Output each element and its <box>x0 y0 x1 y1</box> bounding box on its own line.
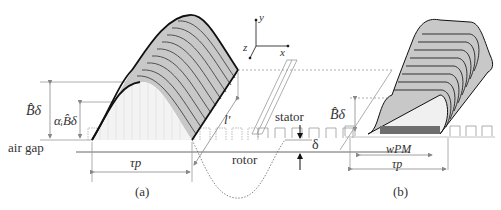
panel-a <box>40 15 410 198</box>
permanent-magnet <box>380 126 440 134</box>
caption-a: (a) <box>135 185 149 198</box>
length-label: l' <box>224 113 230 126</box>
caption-b: (b) <box>393 185 408 198</box>
panel-b <box>345 19 495 170</box>
y-axis-label: y <box>259 12 264 23</box>
rotor-flux-curve <box>192 140 285 198</box>
peak-flux-label: B̂δ <box>26 104 41 118</box>
b-peak-flux-label: B̂δ <box>330 108 345 122</box>
avg-flux-label: αᵢB̂δ <box>54 114 77 127</box>
gap-width-label: δ <box>312 138 319 152</box>
z-axis-label: z <box>243 42 247 53</box>
x-axis-label: x <box>280 47 285 58</box>
flux-diagram <box>0 0 501 210</box>
stator-label: stator <box>275 110 304 123</box>
b-pole-pitch-label: τp <box>392 158 402 170</box>
magnet-width-label: wPM <box>386 143 411 155</box>
air-gap-label: air gap <box>8 141 44 154</box>
pole-pitch-label: τp <box>130 156 141 169</box>
stator-teeth-right <box>258 128 353 138</box>
rotor-label: rotor <box>232 153 257 166</box>
